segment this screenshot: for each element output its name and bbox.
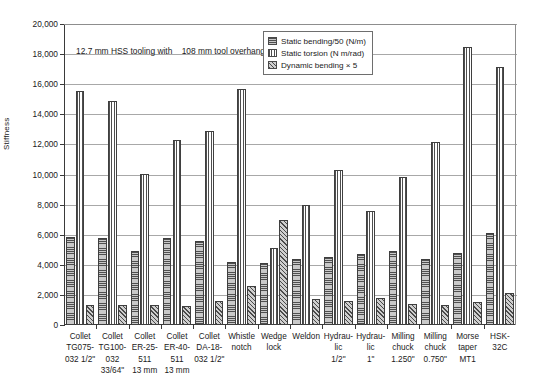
x-tick-label: ColletTG075-032 1/2" (64, 331, 96, 365)
x-tick-label-line: Milling (387, 331, 419, 342)
x-tick-label-line: Weldon (290, 331, 322, 342)
y-tick-label: 14,000 (12, 109, 58, 119)
x-axis-tick (290, 325, 291, 329)
bar-group (421, 24, 449, 325)
x-tick-label-line: Collet (129, 331, 161, 342)
x-axis-tick (193, 325, 194, 329)
bar[interactable] (357, 254, 366, 325)
bar[interactable] (441, 305, 450, 325)
bar[interactable] (98, 238, 107, 325)
bar[interactable] (140, 174, 149, 325)
bar[interactable] (453, 253, 462, 325)
x-tick-label: Millingchuck1.250" (387, 331, 419, 365)
bars-layer (64, 24, 516, 325)
y-tick-label: 8,000 (12, 200, 58, 210)
bar[interactable] (376, 298, 385, 325)
bar[interactable] (505, 293, 514, 326)
x-tick-label: Hydrau-lic1/2" (322, 331, 354, 365)
x-tick-label-line: 1/2" (322, 354, 354, 365)
bar[interactable] (279, 220, 288, 325)
bar[interactable] (247, 286, 256, 325)
x-tick-label: HSK-32C (484, 331, 516, 354)
bar-group (66, 24, 94, 325)
x-tick-label-line: 032 (96, 354, 128, 365)
x-tick-label: ColletTG100-03233/64" (96, 331, 128, 377)
bar[interactable] (215, 301, 224, 325)
bar[interactable] (270, 248, 279, 326)
x-tick-label-line: 1" (355, 354, 387, 365)
bar[interactable] (118, 305, 127, 325)
x-tick-label: ColletDA-18-032 1/2" (193, 331, 225, 365)
bar[interactable] (292, 259, 301, 325)
bar[interactable] (312, 299, 321, 325)
x-tick-label-line: lock (258, 342, 290, 353)
x-axis-tick (225, 325, 226, 329)
x-tick-label-line: Whistle (225, 331, 257, 342)
bar[interactable] (366, 211, 375, 325)
bar[interactable] (260, 263, 269, 325)
x-tick-label-line: 32C (484, 342, 516, 353)
x-tick-label-line: ER-25- (129, 342, 161, 353)
x-tick-label: ColletER-40-51113 mm (161, 331, 193, 377)
x-axis-tick (96, 325, 97, 329)
y-tick-label: 2,000 (12, 290, 58, 300)
x-tick-label-line: DA-18- (193, 342, 225, 353)
x-axis-tick (419, 325, 420, 329)
bar-group (389, 24, 417, 325)
bar[interactable] (86, 305, 95, 325)
bar-group (195, 24, 223, 325)
y-tick-label: 18,000 (12, 49, 58, 59)
bar-group (98, 24, 126, 325)
bar[interactable] (344, 301, 353, 325)
x-tick-label-line: Hydrau- (322, 331, 354, 342)
x-tick-label-line: TG075- (64, 342, 96, 353)
bar[interactable] (108, 101, 117, 325)
bar[interactable] (237, 89, 246, 325)
bar-group (227, 24, 255, 325)
x-axis-tick (387, 325, 388, 329)
bar[interactable] (399, 177, 408, 325)
bar[interactable] (473, 302, 482, 325)
x-axis-tick (258, 325, 259, 329)
bar[interactable] (431, 142, 440, 325)
bar-group (163, 24, 191, 325)
x-tick-label-line: 33/64" (96, 365, 128, 376)
bar[interactable] (195, 241, 204, 325)
bar[interactable] (324, 257, 333, 325)
x-tick-label-line: Wedge (258, 331, 290, 342)
bar[interactable] (150, 305, 159, 325)
x-tick-label-line: 13 mm (129, 365, 161, 376)
x-axis-tick (355, 325, 356, 329)
bar[interactable] (182, 306, 191, 325)
x-tick-label-line: chuck (387, 342, 419, 353)
bar[interactable] (163, 238, 172, 325)
x-axis-tick (129, 325, 130, 329)
bar[interactable] (173, 140, 182, 325)
y-tick-label: 10,000 (12, 170, 58, 180)
x-tick-label-line: Collet (161, 331, 193, 342)
bar[interactable] (389, 251, 398, 325)
bar[interactable] (205, 131, 214, 325)
bar-group (260, 24, 288, 325)
bar[interactable] (486, 233, 495, 325)
x-tick-label-line: Morse (451, 331, 483, 342)
y-tick-label: 20,000 (12, 19, 58, 29)
bar[interactable] (76, 91, 85, 325)
bar[interactable] (227, 262, 236, 325)
x-tick-label: Millingchuck0.750" (419, 331, 451, 365)
x-tick-label-line: Collet (193, 331, 225, 342)
bar[interactable] (421, 259, 430, 325)
x-axis-tick (484, 325, 485, 329)
bar[interactable] (496, 67, 505, 325)
x-tick-label-line: TG100- (96, 342, 128, 353)
x-tick-label-line: taper (451, 342, 483, 353)
bar[interactable] (408, 304, 417, 325)
bar-group (453, 24, 481, 325)
bar[interactable] (66, 237, 75, 325)
bar[interactable] (463, 47, 472, 325)
y-axis-tick-labels: 20,00018,00016,00014,00012,00010,0008,00… (10, 24, 58, 325)
x-tick-label-line: Collet (64, 331, 96, 342)
bar[interactable] (302, 205, 311, 325)
bar[interactable] (131, 251, 140, 325)
bar[interactable] (334, 170, 343, 325)
